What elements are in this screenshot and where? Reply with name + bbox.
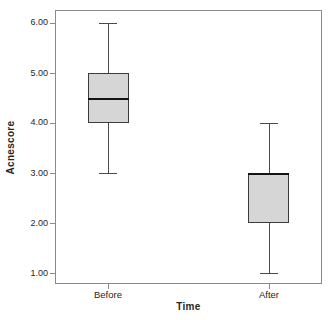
whisker-cap-low	[260, 273, 278, 274]
y-tick-mark	[50, 123, 55, 124]
y-tick-label: 4.00	[14, 117, 48, 128]
y-tick-mark	[50, 223, 55, 224]
y-tick-label: 3.00	[14, 168, 48, 179]
y-axis-title: Acnescore	[6, 120, 17, 174]
median-line	[88, 98, 129, 100]
y-tick-mark	[50, 23, 55, 24]
y-tick-mark	[50, 273, 55, 274]
whisker-cap-low	[99, 173, 117, 174]
y-tick-label: 2.00	[14, 218, 48, 229]
box-iqr	[248, 173, 289, 223]
y-tick-label: 6.00	[14, 17, 48, 28]
acnescore-boxplot-figure: Acnescore Time 1.002.003.004.005.006.00B…	[0, 0, 331, 320]
y-tick-mark	[50, 173, 55, 174]
x-axis-title: Time	[55, 301, 322, 312]
x-tick-label: Before	[73, 289, 143, 301]
plot-area	[55, 10, 322, 284]
y-tick-mark	[50, 73, 55, 74]
y-tick-label: 5.00	[14, 68, 48, 79]
y-tick-label: 1.00	[14, 268, 48, 279]
y-axis-title-column: Acnescore	[0, 10, 22, 284]
median-line	[248, 173, 289, 175]
whisker-cap-high	[99, 23, 117, 24]
whisker-cap-high	[260, 123, 278, 124]
x-tick-label: After	[234, 289, 304, 301]
